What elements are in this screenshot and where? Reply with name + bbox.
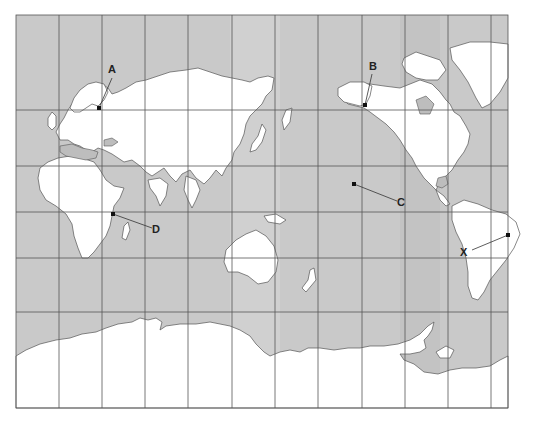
marker-point-x xyxy=(506,233,510,237)
map-canvas xyxy=(0,0,551,428)
marker-point-c xyxy=(352,182,356,186)
marker-label-x: X xyxy=(460,247,467,258)
marker-label-d: D xyxy=(152,224,160,235)
marker-point-b xyxy=(363,103,367,107)
marker-point-a xyxy=(97,106,101,110)
marker-point-d xyxy=(111,212,115,216)
marker-label-a: A xyxy=(108,64,116,75)
marker-label-c: C xyxy=(397,197,405,208)
marker-label-b: B xyxy=(369,61,377,72)
world-map: A B C D X xyxy=(0,0,551,428)
